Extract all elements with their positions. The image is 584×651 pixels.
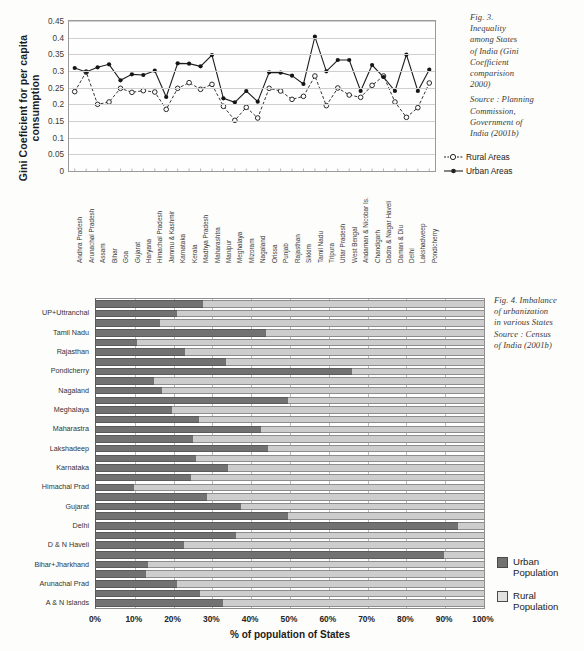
fig3-x-tick-label: Bihar <box>111 248 118 263</box>
fig3-urban-point <box>130 72 134 76</box>
fig3-x-tick-label: Goa <box>122 251 129 263</box>
fig4-rural-segment <box>203 300 484 308</box>
fig4-urban-segment <box>96 426 261 434</box>
fig4-urban-segment <box>96 445 268 453</box>
fig4-y-axis-labels: UP+UttranchalTamil NaduRajasthanPondiche… <box>0 298 95 609</box>
fig4-gridline <box>484 299 485 608</box>
fig3-gridline <box>69 121 435 122</box>
fig4-bar-row <box>96 599 484 607</box>
fig4-rural-segment <box>207 493 484 501</box>
fig4-y-tick-label: Maharastra <box>0 424 95 433</box>
fig4-x-tick-label: 80% <box>397 614 414 624</box>
fig4-urban-segment <box>96 541 184 549</box>
fig3-caption-source: Source : Planning Commission, Government… <box>470 94 574 139</box>
fig3-x-tick-label: Andaman & Nicobar Is. <box>362 197 369 263</box>
fig4-y-tick-label: Arunachal Prad <box>0 578 95 587</box>
fig3-x-tick-label: Maharashtra <box>214 227 221 263</box>
fig4-urban-segment <box>96 300 203 308</box>
fig3-y-tick-label: 0.25 <box>34 83 64 92</box>
fig3-legend-item-rural: Rural Areas <box>444 150 513 164</box>
fig4-x-tick-label: 90% <box>436 614 453 624</box>
fig3-y-tick-label: 0.4 <box>34 33 64 42</box>
fig3-x-tick-label: Daman & Diu <box>397 225 404 263</box>
fig4-y-tick-label: A & N Islands <box>0 598 95 607</box>
fig3-x-tick-label: Andhra Pradesh <box>76 217 83 263</box>
fig4-bar-row <box>96 445 484 453</box>
fig3-urban-point <box>347 58 351 62</box>
fig3-urban-point <box>416 89 420 93</box>
fig3-urban-point <box>107 62 111 66</box>
fig4-legend: Urban Population Rural Population <box>497 556 558 624</box>
fig4-bar-row <box>96 580 484 588</box>
fig4-bar-row <box>96 541 484 549</box>
fig3-rural-point <box>255 116 260 121</box>
fig4-bar-row <box>96 387 484 395</box>
fig3-urban-point <box>244 89 248 93</box>
fig4-x-tick-label: 10% <box>125 614 142 624</box>
fig3-gridline <box>69 54 435 55</box>
figure-3-line-chart: Gini Coeficient for per capita consumpti… <box>0 0 584 272</box>
fig3-urban-point <box>256 100 260 104</box>
fig3-y-tick-label: 0.2 <box>34 100 64 109</box>
fig4-urban-segment <box>96 503 241 511</box>
fig3-x-tick-label: Delhi <box>408 248 415 263</box>
fig3-y-tick-label: 0.3 <box>34 67 64 76</box>
fig3-x-tick-label: Jammu & Kashmir <box>168 211 175 263</box>
fig3-urban-point <box>118 78 122 82</box>
fig3-rural-point <box>427 81 432 86</box>
fig3-urban-point <box>290 74 294 78</box>
fig4-y-tick-label: Nagaland <box>0 385 95 394</box>
fig3-rural-point <box>278 89 283 94</box>
fig3-y-tick-label: 0.35 <box>34 50 64 59</box>
fig3-x-axis-labels: Andhra PradeshArunachal PradeshAssamBiha… <box>68 175 436 267</box>
fig4-rural-segment <box>288 397 484 405</box>
fig3-x-tick-label: Tamil Nadu <box>317 231 324 263</box>
fig4-bar-row <box>96 464 484 472</box>
fig4-rural-segment <box>160 319 484 327</box>
fig4-rural-segment <box>228 464 484 472</box>
fig3-x-tick-label: Madhya Pradesh <box>202 215 209 263</box>
fig4-bar-row <box>96 406 484 414</box>
fig3-rural-point <box>244 105 249 110</box>
fig4-y-tick-label: Lakshadeep <box>0 443 95 452</box>
fig4-urban-segment <box>96 570 146 578</box>
fig4-rural-segment <box>134 484 484 492</box>
fig3-x-tick-label: West Bengal <box>351 227 358 263</box>
fig3-y-axis-ticks: 00.050.10.150.20.250.30.350.40.45 <box>34 0 64 170</box>
fig4-rural-segment <box>352 368 484 376</box>
fig4-urban-segment <box>96 339 137 347</box>
fig4-urban-segment <box>96 368 352 376</box>
fig4-y-tick-label: Bihar+Jharkhand <box>0 559 95 568</box>
fig4-urban-segment <box>96 464 228 472</box>
fig4-rural-segment <box>177 310 484 318</box>
fig4-urban-segment <box>96 319 160 327</box>
fig4-legend-item-urban: Urban Population <box>497 556 558 578</box>
fig3-gridline <box>69 38 435 39</box>
fig3-rural-point <box>164 107 169 112</box>
fig3-rural-point <box>210 82 215 87</box>
fig3-urban-point <box>198 64 202 68</box>
fig3-x-tick-label: Haryana <box>145 239 152 263</box>
fig4-rural-segment <box>172 406 484 414</box>
fig4-bar-row <box>96 512 484 520</box>
fig4-urban-segment <box>96 599 223 607</box>
fig4-bar-row <box>96 455 484 463</box>
fig4-rural-segment <box>241 503 484 511</box>
fig3-legend-label-rural: Rural Areas <box>466 152 510 162</box>
fig4-urban-segment <box>96 377 154 385</box>
fig4-bar-row <box>96 474 484 482</box>
fig4-urban-segment <box>96 532 236 540</box>
fig3-x-tick-label: Orissa <box>271 245 278 263</box>
fig4-bar-row <box>96 329 484 337</box>
fig3-gridline <box>69 154 435 155</box>
fig4-x-tick-label: 60% <box>319 614 336 624</box>
fig4-rural-segment <box>261 426 484 434</box>
fig4-urban-segment <box>96 348 185 356</box>
fig4-urban-segment <box>96 561 148 569</box>
fig3-x-tick-label: Dadra & Nagar Haveli <box>385 201 392 263</box>
fig4-x-tick-label: 0% <box>89 614 101 624</box>
fig4-legend-item-rural: Rural Population <box>497 590 558 612</box>
fig4-caption: Fig. 4. Imbalance of urbanization in var… <box>494 295 584 351</box>
fig4-y-tick-label: D & N Haveli <box>0 540 95 549</box>
urban-swatch-icon <box>497 557 508 568</box>
